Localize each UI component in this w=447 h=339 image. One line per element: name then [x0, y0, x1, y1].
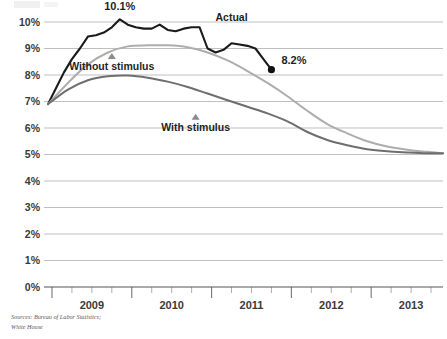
y-tick-label-4%: 4% — [25, 175, 41, 187]
y-tick-label-1%: 1% — [25, 254, 41, 266]
x-tick-label-2012: 2012 — [319, 299, 343, 311]
endpoint-label: 8.2% — [281, 54, 306, 66]
x-tick-label-2009: 2009 — [80, 299, 104, 311]
top-artifact-2 — [44, 2, 58, 7]
peak-label: 10.1% — [104, 0, 135, 12]
unemployment-rate-chart: 0%1%2%3%4%5%6%7%8%9%10% 2009201020112012… — [0, 0, 447, 339]
chart-canvas: 0%1%2%3%4%5%6%7%8%9%10% 2009201020112012… — [0, 0, 447, 339]
x-tick-label-2011: 2011 — [240, 299, 264, 311]
y-tick-label-2%: 2% — [25, 228, 41, 240]
y-tick-label-7%: 7% — [25, 95, 41, 107]
y-tick-label-0%: 0% — [25, 281, 41, 293]
without-stimulus-label: Without stimulus — [69, 60, 154, 72]
with-stimulus-label: With stimulus — [161, 121, 230, 133]
top-artifact — [14, 1, 40, 8]
y-tick-label-10%: 10% — [19, 16, 41, 28]
y-tick-label-9%: 9% — [25, 42, 41, 54]
source-line-1: Sources: Bureau of Labor Statistics; — [11, 313, 101, 320]
source-line-2: White House — [11, 323, 43, 330]
actual-series-label: Actual — [215, 11, 247, 23]
endpoint-dot — [268, 66, 275, 73]
x-tick-label-2010: 2010 — [159, 299, 183, 311]
y-tick-label-3%: 3% — [25, 201, 41, 213]
x-tick-label-2013: 2013 — [399, 299, 423, 311]
y-tick-label-8%: 8% — [25, 69, 41, 81]
y-tick-label-5%: 5% — [25, 148, 41, 160]
y-tick-label-6%: 6% — [25, 122, 41, 134]
